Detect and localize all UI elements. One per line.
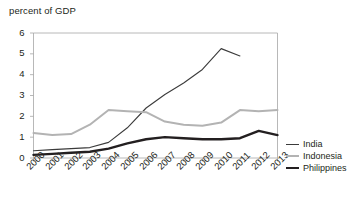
plot-area (0, 0, 355, 208)
legend-swatch-icon (286, 144, 299, 145)
chart-legend: IndiaIndonesiaPhilippines (286, 138, 354, 174)
y-tick-label: 5 (11, 47, 25, 58)
legend-item-india[interactable]: India (286, 138, 354, 150)
y-tick-label: 6 (11, 27, 25, 38)
legend-label: Philippines (303, 162, 347, 174)
y-tick-label: 3 (11, 89, 25, 100)
legend-item-philippines[interactable]: Philippines (286, 162, 354, 174)
y-tick-label: 2 (11, 110, 25, 121)
y-tick-label: 1 (11, 131, 25, 142)
y-tick-label: 4 (11, 68, 25, 79)
data-series-group (34, 49, 278, 155)
chart-container: percent of GDP 0123456 20002001200220032… (0, 0, 355, 208)
series-line-indonesia (34, 110, 278, 135)
axis-ticks (30, 33, 278, 162)
legend-swatch-icon (286, 167, 299, 169)
legend-label: India (303, 138, 323, 150)
legend-item-indonesia[interactable]: Indonesia (286, 150, 354, 162)
legend-label: Indonesia (303, 150, 342, 162)
y-tick-label: 0 (11, 152, 25, 163)
legend-swatch-icon (286, 155, 299, 157)
